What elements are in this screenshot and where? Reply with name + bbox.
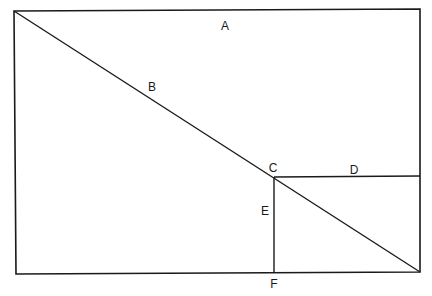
label-d: D	[350, 164, 359, 176]
label-b: B	[148, 81, 156, 93]
label-c: C	[269, 162, 278, 174]
horizontal-line-cd	[274, 176, 420, 177]
label-a: A	[221, 20, 229, 32]
label-f: F	[270, 278, 277, 290]
diagonal-line-b	[14, 11, 420, 272]
label-e: E	[261, 205, 269, 217]
geometric-diagram	[0, 0, 432, 296]
